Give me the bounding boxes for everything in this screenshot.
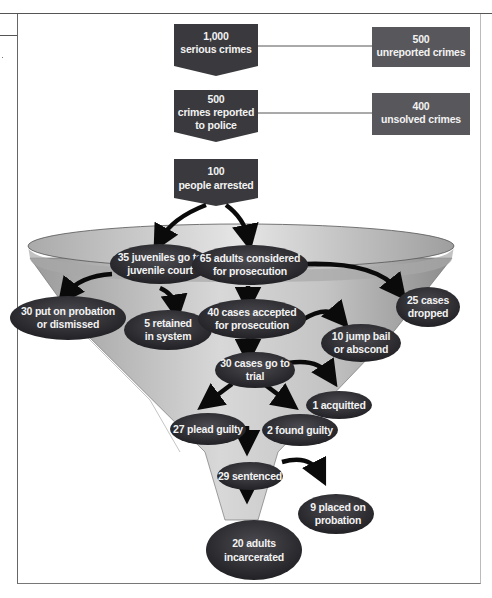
node-acquitted: 1 acquitted [306,391,372,419]
svg-text:27 plead guilty: 27 plead guilty [173,423,243,435]
svg-text:35 juveniles go to: 35 juveniles go to [118,251,203,263]
svg-text:crimes reported: crimes reported [178,106,254,118]
svg-text:10 jump bail: 10 jump bail [332,330,391,342]
svg-text:unreported crimes: unreported crimes [377,46,466,58]
svg-text:juvenile court: juvenile court [126,264,193,276]
node-jump-bail: 10 jump bail or abscond [321,324,401,362]
svg-text:serious crimes: serious crimes [180,43,252,55]
box-serious-crimes: 1,000 serious crimes [174,24,258,76]
svg-text:500: 500 [413,33,430,45]
svg-text:30 put on probation: 30 put on probation [21,305,115,317]
svg-text:500: 500 [208,93,225,105]
box-unsolved-crimes: 400 unsolved crimes [372,93,470,135]
svg-text:20 adults: 20 adults [232,537,276,549]
svg-text:400: 400 [413,100,430,112]
svg-text:1 acquitted: 1 acquitted [312,399,365,411]
svg-text:65 adults considered: 65 adults considered [200,252,300,264]
svg-text:30 cases go to: 30 cases go to [220,357,290,369]
svg-text:in system: in system [145,330,192,342]
node-dropped: 25 cases dropped [396,287,460,327]
svg-text:for prosecution: for prosecution [215,319,289,331]
node-adults: 65 adults considered for prosecution [192,245,308,285]
svg-text:people arrested: people arrested [178,179,253,191]
node-trial: 30 cases go to trial [215,352,295,388]
node-probation-dismissed: 30 put on probation or dismissed [10,296,126,340]
svg-text:probation: probation [315,514,362,526]
svg-text:or abscond: or abscond [334,343,389,355]
svg-text:25 cases: 25 cases [407,294,450,306]
svg-text:or dismissed: or dismissed [37,318,99,330]
box-crimes-reported: 500 crimes reported to police [174,90,258,142]
svg-text:29 sentenced: 29 sentenced [218,470,282,482]
svg-text:1,000: 1,000 [203,30,229,42]
node-plead-guilty: 27 plead guilty [170,413,246,445]
node-found-guilty: 2 found guilty [262,414,338,446]
node-accepted: 40 cases accepted for prosecution [198,299,306,339]
svg-text:100: 100 [208,165,225,177]
svg-text:dropped: dropped [408,307,449,319]
svg-text:to police: to police [195,119,237,131]
box-unreported-crimes: 500 unreported crimes [372,27,470,67]
svg-text:5 retained: 5 retained [144,317,192,329]
box-people-arrested: 100 people arrested [174,159,258,206]
svg-text:trial: trial [246,370,265,382]
svg-text:9 placed on: 9 placed on [310,501,366,513]
svg-text:incarcerated: incarcerated [224,551,284,563]
funnel-diagram: 1,000 serious crimes 500 crimes reported… [0,0,492,598]
node-sentenced: 29 sentenced [217,462,283,490]
svg-text:for prosecution: for prosecution [213,265,287,277]
svg-text:2 found guilty: 2 found guilty [267,424,333,436]
node-incarcerated: 20 adults incarcerated [206,520,302,580]
node-probation: 9 placed on probation [298,494,374,534]
svg-text:40 cases accepted: 40 cases accepted [208,306,297,318]
svg-text:unsolved crimes: unsolved crimes [381,113,461,125]
